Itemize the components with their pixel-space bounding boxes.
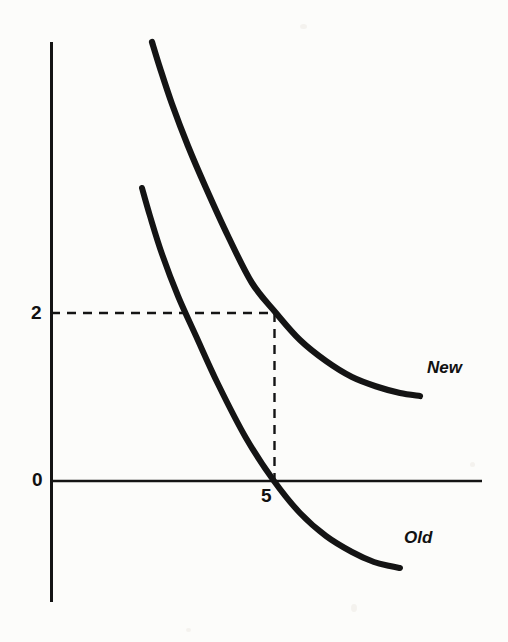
x-axis-tick-label-5: 5 xyxy=(261,486,271,505)
y-axis-tick-label-2: 2 xyxy=(31,303,41,322)
y-axis-tick-label-0: 0 xyxy=(32,470,42,489)
curve-label-old: Old xyxy=(404,529,432,546)
curve-new xyxy=(152,42,420,396)
curve-label-new: New xyxy=(427,359,462,376)
figure-root: 2 0 5 New Old xyxy=(0,0,508,642)
